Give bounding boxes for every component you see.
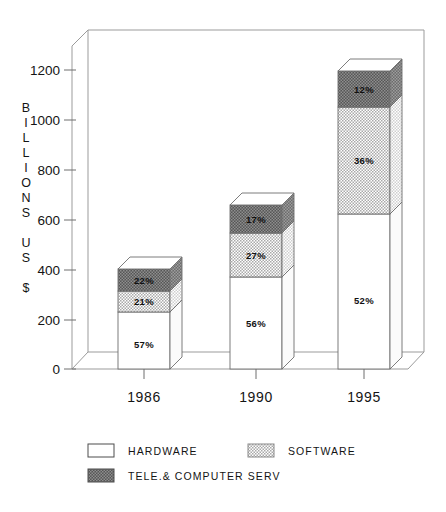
legend: HARDWARE SOFTWARE TELE.& COMPUTER SERV — [88, 444, 356, 482]
bar-label-1986-hardware: 57% — [134, 339, 154, 350]
ytick-label-1200: 1200 — [30, 63, 60, 78]
bar-top-cap-1995 — [338, 59, 402, 71]
bar-group-1995[interactable]: 52% 36% 12% — [338, 59, 402, 369]
xtick-label-1986: 1986 — [127, 389, 161, 405]
ylabel-char-9: U — [21, 236, 30, 250]
xtick-label-1995: 1995 — [347, 389, 381, 405]
bar-label-1990-hardware: 56% — [246, 318, 266, 329]
bar-group-1986[interactable]: 57% 21% 22% — [118, 257, 182, 369]
bar-label-1995-hardware: 52% — [354, 295, 374, 306]
ylabel-char-10: S — [22, 251, 30, 265]
bar-top-cap-1990 — [230, 193, 294, 205]
bar-segment-1995-hardware[interactable] — [338, 214, 390, 369]
bar-side-1995-hardware — [390, 202, 402, 369]
bar-group-1990[interactable]: 56% 27% 17% — [230, 193, 294, 369]
ylabel-char-12: $ — [23, 281, 30, 295]
ylabel-char-7: S — [22, 206, 30, 220]
ytick-label-0: 0 — [52, 362, 60, 377]
ylabel-char-4: I — [24, 161, 27, 175]
ytick-label-800: 800 — [37, 163, 60, 178]
y-axis: 1200 1000 800 600 400 200 0 — [30, 63, 76, 377]
frame-left-wall — [72, 30, 88, 369]
y-axis-title: B I L L I O N S U S $ — [21, 101, 31, 295]
bar-top-cap-1986 — [118, 257, 182, 269]
ylabel-char-3: L — [23, 146, 30, 160]
ylabel-char-6: N — [21, 191, 30, 205]
chart-container: 1200 1000 800 600 400 200 0 B I L L I O … — [0, 0, 446, 512]
legend-swatch-software — [248, 444, 274, 457]
ytick-label-400: 400 — [37, 263, 60, 278]
legend-label-software: SOFTWARE — [288, 445, 356, 457]
bar-label-1990-tele: 17% — [246, 214, 266, 225]
ylabel-char-1: I — [24, 116, 27, 130]
x-axis: 1986 1990 1995 — [127, 369, 381, 405]
bar-side-1990-hardware — [282, 265, 294, 369]
ytick-label-200: 200 — [37, 313, 60, 328]
bar-label-1986-software: 21% — [134, 296, 154, 307]
ytick-label-1000: 1000 — [30, 113, 60, 128]
ylabel-char-5: O — [21, 176, 31, 190]
legend-swatch-hardware — [88, 444, 114, 457]
stacked-bar-chart: 1200 1000 800 600 400 200 0 B I L L I O … — [0, 0, 446, 512]
ytick-label-600: 600 — [37, 213, 60, 228]
bar-label-1995-tele: 12% — [354, 84, 374, 95]
bar-label-1990-software: 27% — [246, 250, 266, 261]
bar-side-1995-software — [390, 95, 402, 214]
ylabel-char-2: L — [23, 131, 30, 145]
legend-swatch-tele — [88, 469, 114, 482]
legend-label-tele: TELE.& COMPUTER SERV — [128, 470, 281, 482]
bar-label-1995-software: 36% — [354, 155, 374, 166]
ylabel-char-0: B — [22, 101, 30, 115]
xtick-label-1990: 1990 — [239, 389, 273, 405]
legend-label-hardware: HARDWARE — [128, 445, 198, 457]
bar-label-1986-tele: 22% — [134, 275, 154, 286]
